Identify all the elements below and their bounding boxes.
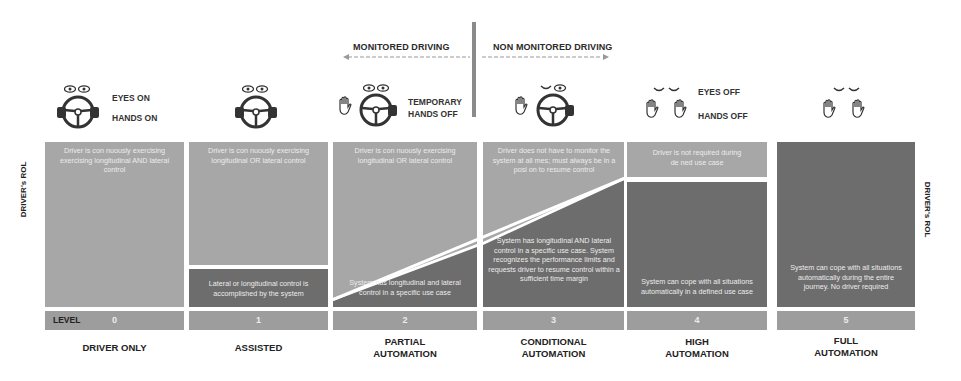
level-1-driver-text: Driver is con nuously exercising longitu… (189, 142, 328, 165)
level-5-system-zone: System can cope with all situations auto… (777, 142, 915, 307)
non-monitored-arrow (482, 53, 610, 61)
level-number: 4 (627, 311, 767, 330)
monitored-arrow (343, 53, 471, 61)
level-5-system-text: System can cope with all situations auto… (785, 263, 907, 292)
level-bar-5: 5 (777, 311, 915, 330)
level-1-driver-zone: Driver is con nuously exercising longitu… (189, 142, 328, 265)
level-1-system-zone: Lateral or longitudinal control is accom… (189, 269, 328, 307)
monitoring-divider (472, 22, 476, 117)
level-number: 3 (483, 311, 624, 330)
raised-hand-icon (514, 96, 528, 116)
level-label: LEVEL (53, 311, 80, 330)
drivers-role-left-label: DRIVER's ROL (19, 162, 28, 218)
level-3-name: CONDITIONAL AUTOMATION (483, 336, 624, 360)
level-number: 1 (189, 311, 328, 330)
eyes-open-icon (64, 85, 92, 93)
level-bar-4: 4 (627, 311, 767, 330)
eyes-open-icon (363, 84, 391, 92)
level-2-driver-text: Driver is con nuously exercising longitu… (343, 146, 467, 165)
level-4-name: HIGH AUTOMATION (627, 336, 767, 360)
level-2-name: PARTIAL AUTOMATION (333, 336, 477, 360)
steering-wheel-hands-on-icon (234, 94, 278, 130)
raised-hand-icon (851, 99, 865, 119)
raised-hand-icon (673, 99, 687, 119)
raised-hand-icon (338, 96, 352, 116)
eyes-off-label: EYES OFF (698, 87, 740, 97)
level-2-system-text: System has longitudinal and lateral cont… (343, 278, 467, 297)
level-bar-2: 2 (333, 311, 477, 330)
monitored-driving-label: MONITORED DRIVING (353, 42, 450, 52)
level-4-driver-text: Driver is not required during de ned use… (627, 142, 767, 167)
steering-wheel-one-hand-icon (533, 92, 577, 128)
level-1-name: ASSISTED (189, 342, 328, 354)
level-5-name: FULL AUTOMATION (777, 335, 915, 359)
level-4-system-zone: System can cope with all situations auto… (627, 182, 767, 307)
level-bar-1: 1 (189, 311, 328, 330)
level-3-system-text: System has longitudinal AND lateral cont… (488, 236, 620, 284)
raised-hand-icon (822, 99, 836, 119)
non-monitored-driving-label: NON MONITORED DRIVING (493, 42, 612, 52)
eyes-closed-icon (833, 86, 861, 94)
temporary-label: TEMPORARY (408, 97, 462, 107)
eyes-open-icon (242, 85, 270, 93)
level-bar-0: LEVEL 0 (45, 311, 184, 330)
level-0-driver-text: Driver is con nuously exercising exercis… (45, 142, 184, 175)
level-0-driver-zone: Driver is con nuously exercising exercis… (45, 142, 184, 307)
steering-wheel-one-hand-icon (356, 92, 400, 128)
hands-on-label: HANDS ON (112, 113, 157, 123)
level-number: 2 (333, 311, 477, 330)
level-4-driver-zone: Driver is not required during de ned use… (627, 142, 767, 177)
level-number: 5 (777, 311, 915, 330)
raised-hand-icon (645, 99, 659, 119)
hands-off-temporary-label: HANDS OFF (408, 109, 458, 119)
level-1-system-text: Lateral or longitudinal control is accom… (189, 269, 328, 298)
level-0-name: DRIVER ONLY (45, 342, 184, 354)
level-3-driver-text: Driver does not have to monitor the syst… (488, 146, 620, 175)
level-4-system-text: System can cope with all situations auto… (633, 277, 761, 296)
level-bar-3: 3 (483, 311, 624, 330)
eye-closed-open-icon (540, 84, 568, 92)
steering-wheel-hands-on-icon (56, 94, 100, 130)
hands-off-label: HANDS OFF (698, 111, 748, 121)
drivers-role-right-label: DRIVER's ROL (923, 182, 932, 238)
eyes-on-label: EYES ON (112, 93, 150, 103)
eyes-closed-icon (653, 86, 681, 94)
